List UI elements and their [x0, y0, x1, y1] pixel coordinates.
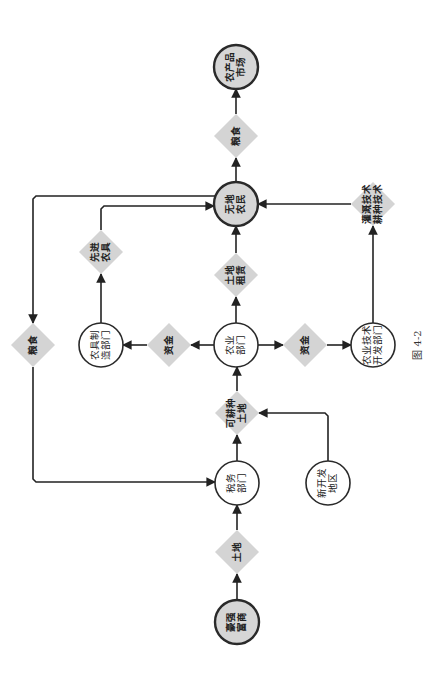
node-tools_dept: 农具制造部门 [79, 323, 123, 367]
node-label: 农具制 [89, 330, 100, 360]
node-label: 可耕种 [225, 398, 236, 428]
node-tools: 先进农具 [79, 230, 123, 274]
node-lease: 土地租赁 [214, 253, 258, 297]
edge-landless-to-grain_left [33, 196, 215, 323]
node-label: 地区 [327, 473, 338, 493]
node-tax_dept: 税务部门 [215, 461, 259, 505]
node-grain_top: 粮食 [214, 114, 258, 158]
figure-caption: 图 4-2 [412, 330, 423, 359]
node-label: 土地 [224, 265, 235, 285]
node-label: 先进 [89, 242, 100, 262]
node-label: 资金 [163, 335, 174, 355]
node-grain_left: 粮食 [11, 323, 55, 367]
node-label: 造部门 [100, 330, 111, 360]
node-fund_left: 资金 [147, 323, 191, 367]
node-label: 土地 [236, 403, 247, 423]
node-market: 农产品市场 [214, 45, 258, 89]
flow-diagram: 农产品市场无地农民豪强富商农业部门农具制造部门农业技术开发部门税务部门新开发地区… [0, 0, 448, 678]
node-label: 部门 [235, 335, 246, 355]
node-gentry: 豪强富商 [215, 600, 259, 644]
node-arable: 可耕种土地 [215, 391, 259, 435]
node-label: 农业 [224, 335, 235, 355]
node-new_area: 新开发地区 [306, 461, 350, 505]
node-label: 农民 [235, 194, 246, 215]
node-label: 资金 [299, 335, 310, 355]
node-label: 灌溉技术 [361, 184, 372, 224]
node-label: 农产品 [224, 52, 235, 83]
node-label: 土地 [231, 542, 242, 562]
node-label: 豪强 [225, 612, 236, 632]
node-agri_dept: 农业部门 [214, 323, 258, 367]
node-label: 租赁 [235, 265, 246, 285]
edge-grain_left-to-tax_dept [33, 367, 215, 482]
edge-tools-to-landless [101, 206, 214, 230]
edge-new_area-to-arable [259, 413, 328, 461]
node-label: 新开发 [316, 468, 327, 498]
node-label: 开发部门 [372, 325, 383, 365]
node-label: 耕种技术 [372, 184, 383, 224]
node-land: 土地 [215, 530, 259, 574]
node-label: 粮食 [230, 126, 241, 146]
node-label: 部门 [236, 473, 247, 493]
node-tech_items: 灌溉技术耕种技术 [351, 182, 395, 226]
node-landless: 无地农民 [214, 182, 258, 226]
node-label: 市场 [235, 57, 246, 77]
node-label: 税务 [225, 473, 236, 493]
node-fund_right: 资金 [283, 323, 327, 367]
node-label: 富商 [236, 612, 247, 632]
node-label: 农具 [100, 242, 111, 263]
node-label: 粮食 [27, 335, 38, 355]
node-tech_dept: 农业技术开发部门 [351, 323, 395, 367]
node-label: 农业技术 [361, 325, 372, 365]
node-label: 无地 [224, 194, 235, 215]
